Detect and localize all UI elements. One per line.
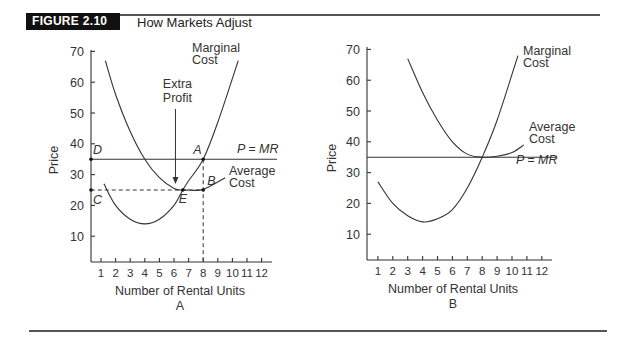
y-tick-label: 10 (346, 228, 360, 242)
arrow-head-icon (172, 177, 178, 184)
y-tick-label: 20 (70, 199, 84, 213)
marginal-cost-label: Cost (192, 53, 218, 67)
y-tick-label: 60 (346, 74, 360, 88)
extra-profit-label: Profit (163, 91, 193, 105)
x-tick-label: 10 (506, 265, 519, 277)
p-mr-label: P = MR (237, 142, 279, 156)
point-c (89, 188, 93, 192)
extra-profit-label: Extra (163, 77, 192, 91)
x-tick-label: 6 (449, 265, 455, 277)
chart-panel-a: 10203040506070123456789101112PriceNumber… (47, 41, 279, 313)
x-tick-label: 10 (226, 267, 239, 279)
point-label-b: B (207, 174, 215, 188)
marginal-cost-curve (378, 56, 518, 222)
x-tick-label: 5 (434, 265, 440, 277)
x-tick-label: 3 (127, 267, 133, 279)
x-tick-label: 11 (241, 267, 253, 279)
y-axis-label: Price (325, 144, 339, 173)
x-tick-label: 4 (142, 267, 149, 279)
chart-panel-b: 10203040506070123456789101112PriceNumber… (325, 43, 575, 311)
y-tick-label: 70 (346, 43, 360, 57)
point-label-c: C (93, 193, 103, 207)
x-tick-label: 1 (98, 267, 104, 279)
x-tick-label: 1 (375, 265, 381, 277)
y-tick-label: 30 (346, 166, 360, 180)
y-tick-label: 30 (70, 168, 84, 182)
x-tick-label: 2 (112, 267, 118, 279)
y-tick-label: 50 (70, 107, 84, 121)
point-d (89, 157, 93, 161)
x-tick-label: 11 (521, 265, 533, 277)
x-tick-label: 8 (200, 267, 206, 279)
x-tick-label: 7 (185, 267, 191, 279)
x-tick-label: 12 (255, 267, 268, 279)
average-cost-label: Cost (529, 132, 555, 146)
x-tick-label: 3 (404, 265, 410, 277)
charts-canvas: 10203040506070123456789101112PriceNumber… (0, 0, 621, 339)
y-tick-label: 60 (70, 76, 84, 90)
point-label-a: A (192, 143, 201, 157)
y-tick-label: 40 (346, 135, 360, 149)
y-tick-label: 50 (346, 105, 360, 119)
panel-caption: B (449, 297, 457, 311)
average-cost-label: Cost (229, 176, 255, 190)
x-tick-label: 8 (479, 265, 485, 277)
x-axis-label: Number of Rental Units (115, 284, 245, 298)
x-tick-label: 2 (390, 265, 396, 277)
x-tick-label: 4 (419, 265, 426, 277)
x-tick-label: 9 (494, 265, 500, 277)
y-tick-label: 10 (70, 230, 84, 244)
x-tick-label: 5 (156, 267, 162, 279)
point-b (201, 188, 205, 192)
point-label-e: E (179, 192, 188, 206)
panel-caption: A (176, 299, 185, 313)
x-axis-label: Number of Rental Units (388, 282, 518, 296)
y-tick-label: 70 (70, 45, 84, 59)
point-a (201, 157, 205, 161)
y-axis-label: Price (47, 146, 61, 175)
x-tick-label: 7 (464, 265, 470, 277)
average-cost-curve (408, 59, 524, 158)
y-tick-label: 20 (346, 197, 360, 211)
y-tick-label: 40 (70, 137, 84, 151)
marginal-cost-label: Cost (523, 56, 549, 70)
x-tick-label: 6 (171, 267, 177, 279)
x-tick-label: 12 (535, 265, 548, 277)
point-label-d: D (93, 143, 102, 157)
p-mr-label: P = MR (516, 153, 558, 167)
x-tick-label: 9 (215, 267, 221, 279)
